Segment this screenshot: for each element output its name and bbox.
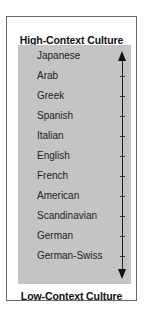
axis-tick	[120, 236, 125, 237]
culture-item: Italian	[37, 130, 64, 141]
culture-item: Arab	[37, 70, 58, 81]
culture-scale-panel: Japanese Arab Greek Spanish Italian Engl…	[18, 45, 131, 284]
culture-item: Greek	[37, 90, 64, 101]
axis-tick	[120, 96, 125, 97]
low-context-label: Low-Context Culture	[7, 290, 136, 302]
axis-tick	[120, 136, 125, 137]
culture-item: Japanese	[37, 50, 80, 61]
axis-tick	[120, 256, 125, 257]
culture-item: Spanish	[37, 110, 73, 121]
arrow-up-icon	[118, 51, 126, 61]
axis-tick	[120, 196, 125, 197]
culture-item: German-Swiss	[37, 250, 103, 261]
culture-item: French	[37, 170, 68, 181]
culture-item: English	[37, 150, 70, 161]
culture-item: Scandinavian	[37, 210, 97, 221]
axis-tick	[120, 216, 125, 217]
diagram-frame: High-Context Culture Japanese Arab Greek…	[6, 16, 137, 301]
axis-tick	[120, 116, 125, 117]
axis-tick	[120, 156, 125, 157]
axis-tick	[120, 76, 125, 77]
culture-item: German	[37, 230, 73, 241]
arrow-down-icon	[118, 269, 126, 279]
axis-tick	[120, 176, 125, 177]
context-axis-line	[122, 56, 123, 274]
culture-item: American	[37, 190, 79, 201]
